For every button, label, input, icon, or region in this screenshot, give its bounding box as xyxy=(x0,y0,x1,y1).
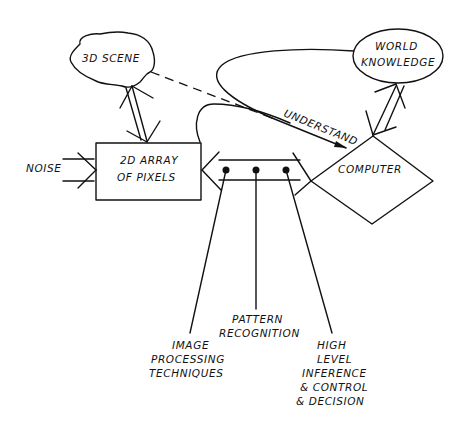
knowledge-label-line2: KNOWLEDGE xyxy=(361,56,435,68)
pixels-label-line2: OF PIXELS xyxy=(117,171,176,183)
high-level-line1: HIGH xyxy=(317,339,346,351)
leader-high-level xyxy=(286,170,332,333)
computer-knowledge-double-arrow xyxy=(366,84,405,135)
node-computer: COMPUTER xyxy=(311,136,433,224)
high-level-line2: LEVEL xyxy=(317,353,352,365)
computer-label: COMPUTER xyxy=(338,163,402,175)
image-processing-line3: TECHNIQUES xyxy=(149,367,223,379)
noise-label: NOISE xyxy=(26,162,62,174)
high-level-line4: & CONTROL xyxy=(300,381,368,393)
image-processing-line2: PROCESSING xyxy=(151,353,225,365)
scene-pixels-double-arrow xyxy=(120,86,160,142)
understand-curve xyxy=(197,104,290,142)
knowledge-label-line1: WORLD xyxy=(375,40,418,52)
node-world-knowledge: WORLD KNOWLEDGE xyxy=(353,29,443,83)
pattern-recognition-line2: RECOGNITION xyxy=(219,327,300,339)
vision-system-diagram: 3D SCENE 2D ARRAY OF PIXELS NOISE xyxy=(0,0,466,426)
image-processing-line1: IMAGE xyxy=(172,339,209,351)
annotation-high-level: HIGH LEVEL INFERENCE & CONTROL & DECISIO… xyxy=(296,339,368,407)
computer-diamond-shape xyxy=(311,136,433,224)
noise-input: NOISE xyxy=(26,153,96,188)
pixels-label-line1: 2D ARRAY xyxy=(120,154,179,166)
high-level-line3: INFERENCE xyxy=(302,367,367,379)
annotation-image-processing: IMAGE PROCESSING TECHNIQUES xyxy=(149,339,225,379)
scene-label: 3D SCENE xyxy=(82,52,140,64)
high-level-line5: & DECISION xyxy=(296,395,365,407)
understand-dashed-line xyxy=(151,72,272,118)
node-2d-array: 2D ARRAY OF PIXELS xyxy=(96,143,201,200)
pattern-recognition-line1: PATTERN xyxy=(232,313,283,325)
node-3d-scene: 3D SCENE xyxy=(70,32,154,87)
leader-image-processing xyxy=(190,170,226,333)
annotation-pattern-recognition: PATTERN RECOGNITION xyxy=(219,313,300,339)
understand-edge: UNDERSTAND xyxy=(197,49,360,148)
